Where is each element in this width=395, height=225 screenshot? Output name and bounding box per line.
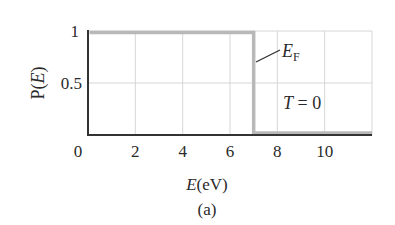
fermi-level-label: EF [281,41,300,64]
fermi-level-pointer [256,50,280,62]
x-tick-labels: 0246810 [74,142,333,161]
y-tick-label-0.5: 0.5 [61,74,82,93]
x-tick-label: 0 [74,142,83,161]
x-tick-label: 8 [273,142,282,161]
y-tick-label-1: 1 [71,22,80,41]
temperature-label: T = 0 [283,93,321,113]
grid [88,31,372,135]
chart-canvas: 1 0.5 P(E) 0246810 E(eV) (a) EF T = 0 [0,0,395,225]
y-axis-label: P(E) [28,66,49,99]
x-tick-label: 2 [131,142,140,161]
figure-caption: (a) [198,200,217,219]
x-tick-label: 6 [226,142,235,161]
x-tick-label: 4 [178,142,187,161]
x-tick-label: 10 [316,142,333,161]
x-axis-label: E(eV) [185,175,228,194]
